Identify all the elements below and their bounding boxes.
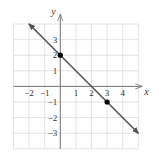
y-tick-label: −3 — [48, 128, 58, 138]
coordinate-plane: −2−11234321−1−2−3 x y — [0, 0, 159, 160]
y-tick-label: 1 — [53, 66, 58, 76]
data-line — [29, 24, 138, 133]
data-point — [58, 53, 63, 58]
x-tick-label: 4 — [120, 88, 125, 98]
axes — [14, 15, 142, 149]
y-tick-label: 3 — [53, 35, 58, 45]
y-tick-label: −1 — [48, 97, 58, 107]
x-tick-label: 3 — [105, 88, 110, 98]
x-axis-label: x — [143, 86, 149, 97]
line-y-equals-neg-x-plus-2 — [29, 24, 138, 133]
line-start-arrow — [29, 24, 33, 28]
x-tick-label: 2 — [89, 88, 94, 98]
x-tick-label: 1 — [74, 88, 79, 98]
y-axis-label: y — [50, 6, 56, 17]
x-tick-label: −2 — [24, 88, 34, 98]
data-point — [105, 99, 110, 104]
y-tick-label: −2 — [48, 113, 58, 123]
